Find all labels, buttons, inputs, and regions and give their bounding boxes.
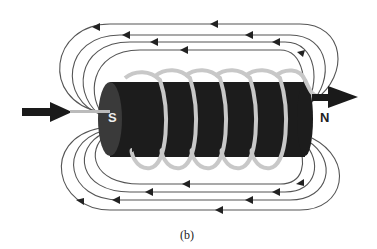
north-pole-label: N	[320, 110, 329, 125]
south-pole-label: S	[108, 110, 117, 125]
current-out-arrow	[312, 86, 358, 108]
solenoid-diagram: S N (b)	[0, 0, 377, 249]
iron-core	[98, 82, 313, 157]
figure-caption: (b)	[180, 228, 194, 243]
